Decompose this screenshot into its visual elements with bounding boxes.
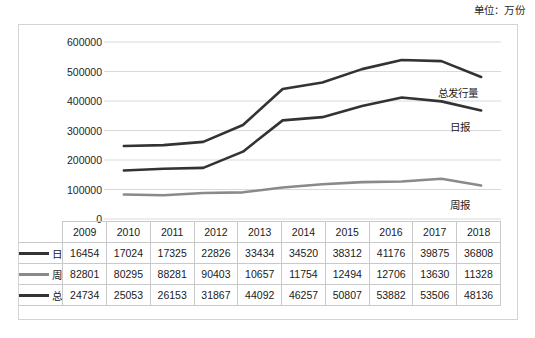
table-header-2017: 2017 [413,222,457,243]
table-header-2015: 2015 [325,222,369,243]
legend-label: 日报 [52,246,63,261]
table-cell: 80295 [107,264,151,285]
table-corner-cell [19,222,63,243]
table-cell: 41176 [369,243,413,264]
legend-line-swatch-icon [19,252,49,255]
table-cell: 34520 [282,243,326,264]
table-cell: 26153 [150,285,194,306]
table-cell: 53506 [413,285,457,306]
table-header-2016: 2016 [369,222,413,243]
table-header-2018: 2018 [457,222,501,243]
table-cell: 24734 [63,285,107,306]
legend-label: 周报 [52,267,63,282]
table-cell: 13630 [413,264,457,285]
table-cell: 50807 [325,285,369,306]
plot-area: 6000005000004000003000002000001000000 总发… [19,25,519,225]
legend-cell-周报: 周报 [19,264,63,285]
table-row: 周报82801802958828190403106571175412494127… [19,264,501,285]
table-cell: 12494 [325,264,369,285]
table-cell: 39875 [413,243,457,264]
table-cell: 53882 [369,285,413,306]
table-cell: 36808 [457,243,501,264]
table-row: 总和24734250532615331867440924625750807538… [19,285,501,306]
table-cell: 38312 [325,243,369,264]
table-header-2009: 2009 [63,222,107,243]
table-row: 日报16454170241732522826334343452038312411… [19,243,501,264]
table-cell: 16454 [63,243,107,264]
series-line-周报 [124,179,481,196]
table-header-2012: 2012 [194,222,238,243]
table-cell: 48136 [457,285,501,306]
series-line-总和 [124,60,481,146]
table-cell: 22826 [194,243,238,264]
legend-line-swatch-icon [19,273,49,276]
chart-container: 6000005000004000003000002000001000000 总发… [18,24,518,320]
table-cell: 11328 [457,264,501,285]
table-header-2014: 2014 [282,222,326,243]
table-cell: 17024 [107,243,151,264]
table-cell: 82801 [63,264,107,285]
legend-label: 总和 [52,288,63,303]
legend-line-swatch-icon [19,294,49,297]
table-header-2010: 2010 [107,222,151,243]
table-cell: 46257 [282,285,326,306]
table-cell: 11754 [282,264,326,285]
table-cell: 12706 [369,264,413,285]
legend-cell-日报: 日报 [19,243,63,264]
table-cell: 25053 [107,285,151,306]
table-cell: 44092 [238,285,282,306]
series-label-日报: 日报 [450,119,470,134]
chart-svg [19,25,519,225]
table-cell: 10657 [238,264,282,285]
table-cell: 17325 [150,243,194,264]
table-header-2013: 2013 [238,222,282,243]
table-cell: 31867 [194,285,238,306]
legend-cell-总和: 总和 [19,285,63,306]
table-header-2011: 2011 [150,222,194,243]
table-cell: 90403 [194,264,238,285]
series-label-周报: 周报 [450,197,470,212]
unit-annotation: 单位：万份 [474,2,526,17]
table-cell: 33434 [238,243,282,264]
table-header-row: 2009201020112012201320142015201620172018 [19,222,501,243]
series-label-总发行量: 总发行量 [438,85,478,100]
chart-data-table: 2009201020112012201320142015201620172018… [19,221,501,306]
table-cell: 88281 [150,264,194,285]
